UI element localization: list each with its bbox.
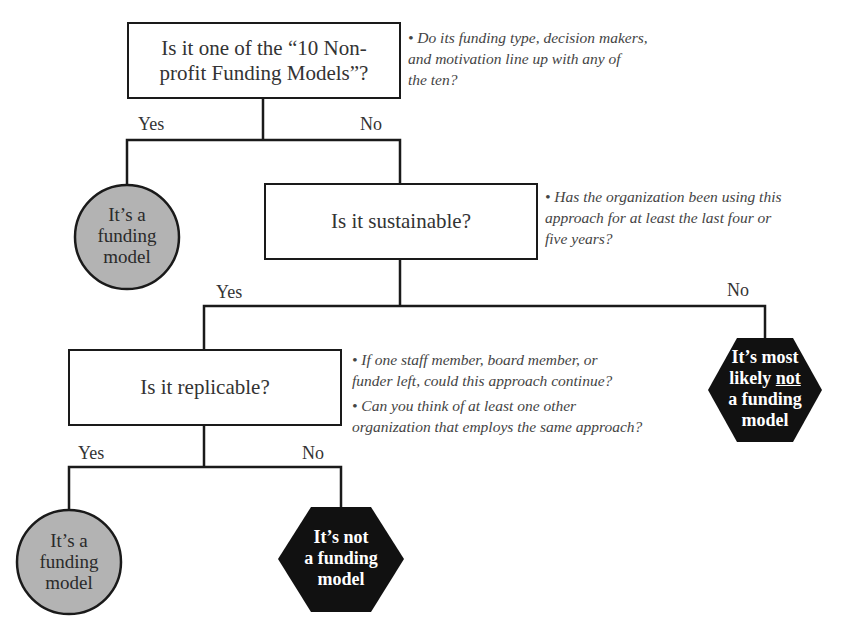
note-line: and motivation line up with any of (408, 48, 648, 69)
note-line: the ten? (408, 69, 648, 90)
note-line: • Can you think of at least one other (352, 395, 642, 416)
question-text: Is it replicable? (140, 375, 269, 400)
note-sustainable: • Has the organization been using this a… (545, 186, 782, 249)
outcome-line: a funding (708, 389, 822, 410)
question-box-ten-models: Is it one of the “10 Non- profit Funding… (127, 22, 401, 99)
outcome-line: funding (19, 551, 119, 572)
outcome-text-most-likely-not: It’s most likely not a funding model (708, 347, 822, 431)
note-line: • If one staff member, board member, or (352, 349, 642, 370)
question-box-sustainable: Is it sustainable? (264, 183, 538, 260)
connector-q2-branch (204, 306, 765, 349)
note-line: • Do its funding type, decision makers, (408, 27, 648, 48)
outcome-line: It’s not (281, 527, 401, 548)
outcome-line: model (708, 410, 822, 431)
note-replicable: • If one staff member, board member, or … (352, 349, 642, 437)
branch-label-q3-yes: Yes (78, 443, 104, 464)
outcome-text-funding-model-2: It’s a funding model (19, 530, 119, 593)
outcome-line: likely not (708, 368, 822, 389)
note-line: funder left, could this approach continu… (352, 370, 642, 391)
note-ten-models: • Do its funding type, decision makers, … (408, 27, 648, 90)
question-text-line-1: Is it one of the “10 Non- (160, 36, 369, 61)
branch-label-q2-yes: Yes (216, 282, 242, 303)
connector-q3-branch (69, 467, 341, 510)
note-line: • Has the organization been using this (545, 186, 782, 207)
branch-label-q1-yes: Yes (138, 114, 164, 135)
outcome-line: It’s a (77, 204, 177, 225)
outcome-line: model (19, 572, 119, 593)
note-line: approach for at least the last four or (545, 207, 782, 228)
branch-label-q3-no: No (302, 443, 324, 464)
note-line: organization that employs the same appro… (352, 416, 642, 437)
note-line: five years? (545, 228, 782, 249)
outcome-text-not: It’s not a funding model (281, 527, 401, 590)
question-box-replicable: Is it replicable? (68, 349, 342, 426)
connector-q1-branch (127, 140, 400, 185)
outcome-line: model (77, 246, 177, 267)
outcome-line: It’s most (708, 347, 822, 368)
outcome-emphasis: not (776, 368, 801, 388)
question-text: Is it sustainable? (331, 209, 471, 234)
outcome-line: a funding (281, 548, 401, 569)
outcome-line: model (281, 569, 401, 590)
branch-label-q2-no: No (727, 280, 749, 301)
outcome-text-funding-model-1: It’s a funding model (77, 204, 177, 267)
question-text-line-2: profit Funding Models”? (160, 61, 369, 86)
outcome-word: likely (729, 368, 771, 388)
outcome-line: It’s a (19, 530, 119, 551)
branch-label-q1-no: No (360, 114, 382, 135)
outcome-line: funding (77, 225, 177, 246)
